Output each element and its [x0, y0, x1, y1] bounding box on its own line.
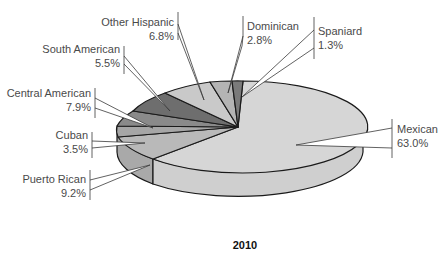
pie-chart: Mexican 63.0% Puerto Rican 9.2% Cuban 3.…	[0, 0, 446, 259]
label-dominican-pct: 2.8%	[247, 34, 272, 46]
label-cuban-name: Cuban	[56, 129, 88, 141]
label-puerto-rican-name: Puerto Rican	[22, 173, 86, 185]
chart-title: 2010	[233, 239, 257, 251]
label-other-hispanic-pct: 6.8%	[149, 30, 174, 42]
label-south-american-name: South American	[42, 43, 120, 55]
label-central-american-pct: 7.9%	[66, 101, 91, 113]
label-puerto-rican-pct: 9.2%	[61, 187, 86, 199]
label-other-hispanic-name: Other Hispanic	[101, 16, 174, 28]
label-dominican-name: Dominican	[247, 20, 299, 32]
label-central-american-name: Central American	[7, 87, 91, 99]
label-spaniard-pct: 1.3%	[318, 39, 343, 51]
label-south-american-pct: 5.5%	[95, 57, 120, 69]
label-mexican-pct: 63.0%	[397, 137, 428, 149]
label-cuban-pct: 3.5%	[63, 143, 88, 155]
label-mexican-name: Mexican	[397, 123, 438, 135]
label-spaniard-name: Spaniard	[318, 25, 362, 37]
